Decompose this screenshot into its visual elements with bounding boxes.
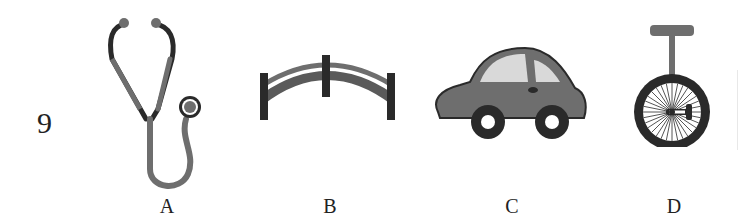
option-a[interactable] xyxy=(100,14,215,193)
page-edge-divider xyxy=(737,70,738,150)
option-d-label: D xyxy=(667,196,681,216)
arch-bridge-icon xyxy=(255,55,400,120)
question-number: 9 xyxy=(37,108,52,138)
stethoscope-icon xyxy=(100,14,215,189)
option-b-label: B xyxy=(323,196,336,216)
car-icon xyxy=(430,40,590,145)
option-d[interactable] xyxy=(628,22,718,151)
option-a-label: A xyxy=(160,196,174,216)
unicycle-icon xyxy=(628,22,718,147)
option-c-label: C xyxy=(505,196,518,216)
option-c[interactable] xyxy=(430,40,590,149)
option-b[interactable] xyxy=(255,55,400,124)
